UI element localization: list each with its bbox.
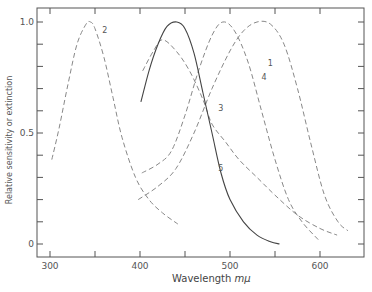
curve-label-4: 4 <box>262 73 267 82</box>
y-tick-label: 1.0 <box>20 17 35 27</box>
curve-label-1: 1 <box>268 59 273 68</box>
y-tick-label: 0.5 <box>20 128 34 138</box>
x-axis-title: Wavelength mμ <box>172 273 251 284</box>
curve-3 <box>143 40 337 235</box>
chart-canvas: 30040050060000.51.0 12345 Wavelength mμ … <box>0 0 372 292</box>
axis-ticks <box>37 8 364 257</box>
curve-label-3: 3 <box>218 104 223 113</box>
curve-2 <box>52 21 178 224</box>
x-tick-label: 500 <box>221 261 238 271</box>
y-tick-label: 0 <box>28 239 34 249</box>
y-axis-title: Relative sensitivity or extinction <box>5 76 14 204</box>
axis-tick-labels: 30040050060000.51.0 <box>20 17 329 271</box>
x-tick-label: 600 <box>311 261 328 271</box>
x-tick-label: 300 <box>41 261 58 271</box>
curve-label-2: 2 <box>102 26 107 35</box>
curve-labels: 12345 <box>102 26 273 173</box>
curve-label-5: 5 <box>218 164 223 173</box>
curve-4 <box>142 22 318 240</box>
x-tick-label: 400 <box>131 261 148 271</box>
x-axis-unit: mμ <box>235 273 251 284</box>
plot-frame <box>37 8 364 257</box>
data-curves <box>52 21 348 244</box>
curve-1 <box>138 21 348 230</box>
curve-5 <box>141 22 280 244</box>
